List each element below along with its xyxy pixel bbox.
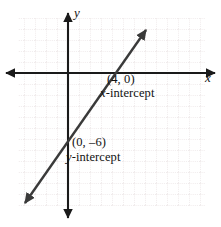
x-intercept-caption: x-intercept <box>100 86 155 100</box>
coordinate-plane-svg <box>0 0 221 227</box>
graph-figure: y x (4, 0) x-intercept (0, –6) y-interce… <box>0 0 221 227</box>
y-intercept-caption: y-intercept <box>66 150 121 164</box>
y-intercept-caption-text: -intercept <box>72 150 121 164</box>
y-intercept-coordinates-label: (0, –6) <box>72 135 106 149</box>
y-axis-label: y <box>74 5 80 21</box>
grid-area <box>18 18 205 206</box>
x-intercept-caption-text: -intercept <box>106 86 155 100</box>
x-intercept-coordinates-label: (4, 0) <box>107 72 135 86</box>
x-axis-label: x <box>205 70 211 86</box>
